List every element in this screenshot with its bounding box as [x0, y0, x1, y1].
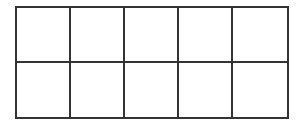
- grid-cell-r1-c5: [233, 8, 287, 63]
- grid-cell-r2-c3: [125, 63, 179, 118]
- grid-cell-r2-c5: [233, 63, 287, 118]
- grid-cell-r2-c1: [17, 63, 71, 118]
- grid-cell-r1-c2: [71, 8, 125, 63]
- grid-cell-r1-c3: [125, 8, 179, 63]
- ten-frame-grid: [15, 6, 289, 119]
- grid-cell-r2-c2: [71, 63, 125, 118]
- grid-cell-r2-c4: [179, 63, 233, 118]
- grid-cell-r1-c4: [179, 8, 233, 63]
- grid-cell-r1-c1: [17, 8, 71, 63]
